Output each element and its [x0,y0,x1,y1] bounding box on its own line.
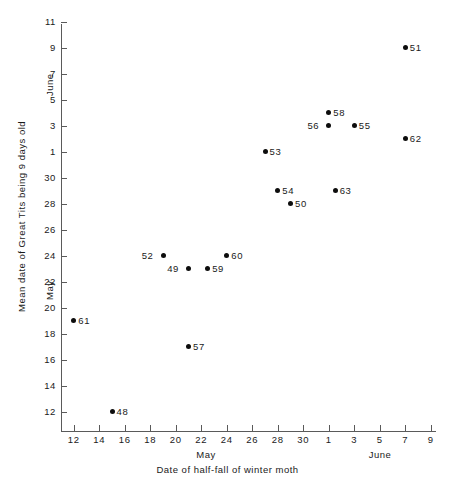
y-tick [61,126,67,127]
y-tick-label: 12 [32,406,56,417]
data-point-marker [110,409,115,414]
x-tick-label: 12 [62,434,86,445]
y-tick-label: 30 [32,172,56,183]
x-tick [99,425,100,431]
y-tick-label: 24 [32,250,56,261]
y-tick-label: 1 [32,146,56,157]
x-tick-label: 24 [215,434,239,445]
x-tick-label: 5 [368,434,392,445]
data-point-marker [403,136,408,141]
y-axis-title: Mean date of Great Tits being 9 days old [16,121,27,312]
x-tick [74,425,75,431]
y-tick [61,386,67,387]
x-axis-month-may: May [146,449,266,460]
x-tick-label: 26 [240,434,264,445]
y-tick [61,230,67,231]
y-tick-label: 11 [32,16,56,27]
y-axis-month-may: May [44,281,55,300]
data-point-marker [326,110,331,115]
y-tick-label: 16 [32,354,56,365]
y-tick [61,282,67,283]
x-tick [431,425,432,431]
y-tick [61,308,67,309]
y-tick-label: 28 [32,198,56,209]
data-point-marker [333,188,338,193]
data-point-marker [326,123,331,128]
y-tick [61,74,67,75]
x-tick [405,425,406,431]
x-tick [227,425,228,431]
data-point-marker [288,201,293,206]
data-point-label: 62 [410,133,422,144]
y-tick-label: 3 [32,120,56,131]
y-tick-label: 20 [32,302,56,313]
x-tick-label: 1 [317,434,341,445]
x-tick-label: 3 [342,434,366,445]
y-tick [61,48,67,49]
data-point-label: 56 [307,120,319,131]
data-point-label: 50 [295,198,307,209]
data-point-label: 57 [193,341,205,352]
x-tick [303,425,304,431]
x-tick-label: 14 [87,434,111,445]
x-tick [150,425,151,431]
y-tick-label: 9 [32,42,56,53]
x-tick-label: 16 [113,434,137,445]
y-tick [61,412,67,413]
data-point-label: 58 [333,107,345,118]
data-point-label: 61 [78,315,90,326]
x-tick-label: 22 [189,434,213,445]
data-point-marker [352,123,357,128]
x-tick-label: 28 [266,434,290,445]
x-tick [278,425,279,431]
x-tick-label: 30 [291,434,315,445]
scatter-plot: 121416182022242628301357911 121416182022… [0,0,455,484]
x-tick [125,425,126,431]
data-point-label: 55 [359,120,371,131]
x-axis-line [61,431,436,432]
x-tick [354,425,355,431]
x-tick [176,425,177,431]
x-tick-label: 20 [164,434,188,445]
x-axis-title: Date of half-fall of winter moth [0,464,455,475]
x-tick-label: 18 [138,434,162,445]
y-tick [61,178,67,179]
y-tick [61,152,67,153]
data-point-label: 52 [142,250,154,261]
y-tick-label: 14 [32,380,56,391]
data-point-label: 49 [167,263,179,274]
data-point-marker [224,253,229,258]
data-point-marker [71,318,76,323]
x-tick [380,425,381,431]
data-point-marker [263,149,268,154]
x-tick [329,425,330,431]
y-tick [61,100,67,101]
y-axis-line [61,24,62,431]
y-tick [61,204,67,205]
data-point-label: 48 [117,406,129,417]
y-tick [61,256,67,257]
y-tick [61,360,67,361]
x-tick-label: 7 [393,434,417,445]
data-point-label: 59 [212,263,224,274]
data-point-marker [403,45,408,50]
x-axis-month-june: June [320,449,440,460]
data-point-marker [275,188,280,193]
data-point-label: 53 [270,146,282,157]
data-point-label: 54 [282,185,294,196]
y-tick-label: 18 [32,328,56,339]
y-tick [61,334,67,335]
data-point-marker [186,344,191,349]
y-axis-month-june: June [44,73,55,96]
data-point-label: 60 [231,250,243,261]
x-tick-label: 9 [419,434,443,445]
data-point-marker [161,253,166,258]
x-tick [201,425,202,431]
data-point-label: 51 [410,42,422,53]
x-tick [252,425,253,431]
data-point-marker [186,266,191,271]
data-point-marker [205,266,210,271]
data-point-label: 63 [340,185,352,196]
y-tick [61,22,67,23]
y-tick-label: 26 [32,224,56,235]
